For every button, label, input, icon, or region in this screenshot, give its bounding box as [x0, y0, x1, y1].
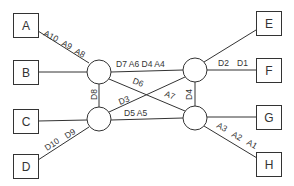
terminal-g: G: [257, 106, 282, 130]
label-d3: D3: [117, 93, 131, 106]
terminal-c: C: [14, 110, 39, 134]
terminal-d: D: [14, 155, 39, 179]
switch-node-top-right: [183, 58, 207, 82]
label-bottom-link: D5 A5: [124, 108, 147, 118]
switch-node-bottom-left: [87, 107, 111, 131]
label-a9: A9: [60, 38, 74, 52]
label-d4: D4: [184, 89, 194, 100]
terminal-h: H: [257, 153, 282, 177]
terminal-f: F: [257, 59, 282, 83]
label-a8: A8: [73, 46, 87, 60]
terminal-a: A: [14, 14, 39, 38]
label-d1: D1: [237, 58, 248, 68]
label-d6: D6: [131, 76, 145, 89]
label-d2: D2: [218, 58, 229, 68]
label-a2: A2: [230, 129, 244, 143]
terminal-e: E: [257, 12, 282, 36]
terminal-label: H: [265, 158, 274, 172]
label-d8: D8: [89, 89, 99, 100]
edge-topright-e: [204, 30, 256, 62]
terminal-label: E: [265, 17, 273, 31]
label-a3: A3: [215, 120, 229, 134]
terminal-label: D: [22, 160, 31, 174]
label-d10: D10: [43, 136, 62, 153]
terminal-label: B: [22, 66, 30, 80]
terminal-b: B: [14, 61, 39, 85]
terminal-label: F: [265, 64, 272, 78]
switch-node-top-left: [87, 60, 111, 84]
label-d9: D9: [63, 126, 78, 140]
switch-node-bottom-right: [183, 106, 207, 130]
terminal-label: C: [22, 115, 31, 129]
label-a7: A7: [163, 89, 177, 102]
edge-c-bottomleft: [38, 120, 87, 121]
network-diagram: ABCDEFGH A10 A9 A8 D7 A6 D4 A4 D2 D1 D6 …: [0, 0, 294, 186]
edge-bottom-link: [111, 118, 183, 120]
terminal-label: A: [22, 19, 30, 33]
terminal-label: G: [264, 111, 273, 125]
label-a1: A1: [245, 137, 259, 151]
label-a10: A10: [42, 28, 60, 44]
label-top-link: D7 A6 D4 A4: [116, 59, 165, 69]
edge-top-link: [111, 70, 183, 72]
